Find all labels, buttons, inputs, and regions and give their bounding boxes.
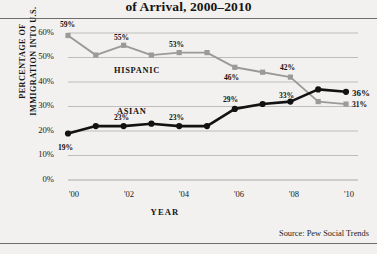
data-label-asian-2004: 23%: [169, 113, 184, 122]
y-tick-10: 10%: [24, 150, 54, 159]
data-label-asian-2006: 29%: [223, 95, 238, 104]
x-tick-08: '08: [281, 189, 307, 199]
data-label-hispanic-2006: 46%: [224, 73, 239, 82]
x-tick-04: '04: [171, 189, 197, 199]
bottom-divider: [0, 243, 377, 244]
data-label-asian-2010: 36%: [352, 88, 370, 98]
chart-title: of Arrival, 2000–2010: [0, 0, 377, 15]
x-tick-10: '10: [336, 189, 362, 199]
x-tick-00: '00: [61, 189, 87, 199]
chart-svg: [60, 20, 365, 185]
series-label-asian: ASIAN: [117, 107, 147, 116]
data-label-asian-2000: 19%: [58, 143, 73, 152]
y-tick-50: 50%: [24, 52, 54, 61]
x-tick-06: '06: [226, 189, 252, 199]
x-tick-02: '02: [116, 189, 142, 199]
y-tick-0: 0%: [24, 175, 54, 184]
data-label-hispanic-2002: 55%: [114, 33, 129, 42]
x-axis-title: YEAR: [0, 207, 330, 217]
series-label-hispanic: HISPANIC: [114, 66, 160, 75]
series-line-asian: [65, 86, 349, 136]
y-tick-60: 60%: [24, 28, 54, 37]
plot-area: [60, 20, 365, 185]
chart-figure: of Arrival, 2000–2010 PERCENTAGE OF IMMI…: [0, 0, 377, 254]
y-tick-40: 40%: [24, 77, 54, 86]
data-label-hispanic-2008: 42%: [280, 63, 295, 72]
data-label-hispanic-2010: 31%: [352, 100, 367, 109]
source-note: Source: Pew Social Trends: [279, 229, 369, 238]
data-label-asian-2008: 33%: [279, 91, 294, 100]
y-axis-title-line1: PERCENTAGE OF: [17, 0, 28, 146]
data-label-hispanic-2004: 53%: [169, 40, 184, 49]
title-divider: [0, 18, 377, 19]
y-tick-30: 30%: [24, 101, 54, 110]
data-label-hispanic-2000: 59%: [60, 20, 75, 29]
y-tick-20: 20%: [24, 126, 54, 135]
